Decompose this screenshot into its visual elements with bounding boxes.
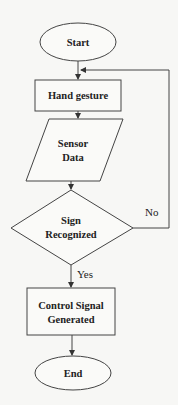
yes-label: Yes [77, 268, 93, 280]
hand-gesture-node: Hand gesture [35, 80, 121, 111]
sign-recognized-label-2: Recognized [45, 229, 96, 240]
end-node: End [35, 356, 111, 390]
sign-recognized-label-1: Sign [61, 215, 81, 226]
control-signal-node: Control Signal Generated [27, 288, 115, 335]
control-signal-label-1: Control Signal [38, 300, 104, 311]
flowchart: Start Hand gesture Sensor Data Sign Reco… [0, 0, 178, 405]
sensor-data-label-2: Data [62, 152, 84, 163]
sensor-data-label-1: Sensor [58, 138, 89, 149]
sign-recognized-node: Sign Recognized [11, 190, 133, 265]
start-label: Start [67, 37, 90, 48]
no-label: No [145, 206, 159, 218]
start-node: Start [40, 23, 116, 61]
end-label: End [64, 368, 83, 379]
hand-gesture-label: Hand gesture [48, 90, 109, 101]
sensor-data-node: Sensor Data [26, 119, 123, 181]
control-signal-label-2: Generated [47, 314, 94, 325]
